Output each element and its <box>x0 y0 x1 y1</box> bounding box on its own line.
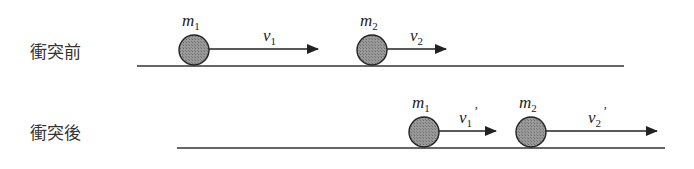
ball-icon <box>357 35 387 65</box>
velocity-label-v2: v2 <box>410 26 423 47</box>
ball-m2-after: m2 v2’ <box>516 93 657 147</box>
velocity-label-v1-prime: v1’ <box>459 103 478 129</box>
ball-icon <box>409 117 439 147</box>
mass-label-m1: m1 <box>182 11 200 32</box>
ball-m2-before: m2 v2 <box>357 11 446 65</box>
before-collision-scene: 衝突前 m1 v1 m2 v2 <box>30 11 624 66</box>
ball-m1-before: m1 v1 <box>179 11 318 65</box>
velocity-label-v1: v1 <box>263 26 276 47</box>
mass-label-m1: m1 <box>412 93 430 114</box>
ball-icon <box>516 117 546 147</box>
mass-label-m2: m2 <box>519 93 537 114</box>
mass-label-m2: m2 <box>360 11 378 32</box>
collision-diagram: 衝突前 m1 v1 m2 v2 衝突後 m1 v1’ <box>0 0 694 169</box>
after-collision-scene: 衝突後 m1 v1’ m2 v2’ <box>30 93 665 148</box>
velocity-label-v2-prime: v2’ <box>588 103 607 129</box>
before-label: 衝突前 <box>30 42 81 62</box>
ball-m1-after: m1 v1’ <box>409 93 496 147</box>
ball-icon <box>179 35 209 65</box>
after-label: 衝突後 <box>30 123 81 143</box>
